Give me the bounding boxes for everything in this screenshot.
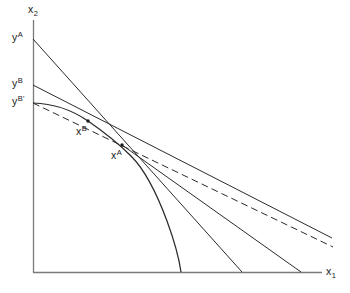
label-y-b: yB — [12, 78, 23, 89]
y-axis-label: x2 — [28, 4, 38, 15]
price-line-b — [33, 85, 332, 238]
point-marker-xb — [86, 119, 89, 122]
point-marker-xa — [120, 143, 123, 146]
economics-figure: x2 x1 yA yB yB' xB xA — [0, 0, 350, 293]
label-x-b: xB — [76, 126, 87, 137]
label-x-a: xA — [111, 150, 122, 161]
label-y-b-prime: yB' — [12, 96, 24, 107]
production-possibility-frontier — [33, 103, 181, 272]
x-axis-label: x1 — [326, 266, 336, 277]
figure-canvas — [0, 0, 350, 293]
label-y-a: yA — [12, 32, 23, 43]
